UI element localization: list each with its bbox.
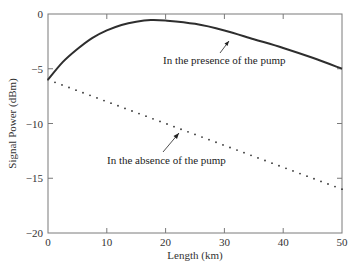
x-tick-label: 50 <box>337 236 349 248</box>
x-tick-label: 30 <box>219 236 231 248</box>
y-axis-label: Signal Power (dBm) <box>6 78 19 169</box>
y-tick-label: −15 <box>26 172 44 184</box>
x-tick-label: 10 <box>101 236 113 248</box>
annotations: In the presence of the pumpIn the absenc… <box>107 41 286 166</box>
x-axis-label: Length (km) <box>167 249 223 262</box>
series-presence-of-pump <box>48 20 342 80</box>
x-tick-label: 40 <box>278 236 290 248</box>
y-tick-label: 0 <box>38 8 44 20</box>
y-tick-label: −10 <box>26 118 44 130</box>
y-tick-label: −5 <box>31 63 43 75</box>
y-tick-label: −20 <box>26 227 44 239</box>
plot-frame <box>48 14 342 233</box>
annotation-absence: In the absence of the pump <box>107 154 226 166</box>
tick-labels: 010203040500−5−10−15−20 <box>26 8 348 248</box>
x-tick-label: 20 <box>160 236 172 248</box>
arrow-head-icon <box>225 41 230 46</box>
x-tick-label: 0 <box>45 236 51 248</box>
axis-ticks <box>48 14 342 233</box>
series-absence-of-pump <box>47 79 343 190</box>
signal-power-chart: 010203040500−5−10−15−20 In the presence … <box>0 0 359 277</box>
annotation-presence: In the presence of the pump <box>163 54 286 66</box>
